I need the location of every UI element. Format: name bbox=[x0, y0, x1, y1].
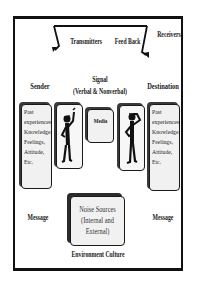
transmitters-label: Transmitters bbox=[70, 37, 102, 46]
signal-sublabel: (Verbal & Nonverbal) bbox=[73, 87, 128, 96]
noise-sources-box: Noise Sources (Internal and External) bbox=[70, 196, 125, 246]
destination-label: Destination bbox=[146, 81, 179, 91]
signal-label: Signal bbox=[86, 75, 115, 84]
environment-culture-label: Environment Culture bbox=[68, 250, 128, 259]
sender-label: Sender bbox=[26, 81, 55, 91]
destination-message-label: Message bbox=[147, 213, 179, 222]
sender-figure-box bbox=[56, 104, 83, 169]
media-box: Media bbox=[87, 109, 114, 143]
destination-figure-box bbox=[119, 105, 145, 171]
sender-attributes-box: Past experiences Knowledge, Feelings, At… bbox=[21, 104, 52, 189]
destination-attributes-box: Past experiences Knowledge, Feelings, At… bbox=[149, 104, 180, 191]
feedback-label: Feed Back bbox=[115, 37, 139, 46]
person-raising-hand-icon bbox=[57, 105, 81, 167]
sender-message-label: Message bbox=[22, 213, 54, 222]
media-label: Media bbox=[89, 117, 113, 125]
person-thinking-icon bbox=[120, 106, 144, 168]
receivers-label: Receivers bbox=[157, 30, 181, 39]
